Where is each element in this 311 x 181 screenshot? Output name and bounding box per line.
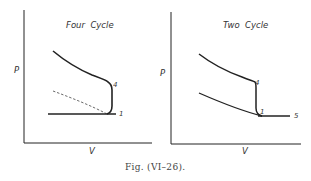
four-cycle-point-4-label: 4 bbox=[113, 81, 117, 89]
two-cycle-y-axis-label: P bbox=[160, 68, 165, 78]
four-cycle-x-axis-label: V bbox=[89, 146, 95, 156]
four-cycle-y-axis-label: P bbox=[14, 65, 19, 75]
two-cycle-point-4-label: 4 bbox=[255, 79, 259, 87]
two-cycle-expansion-curve bbox=[199, 54, 256, 88]
four-cycle-expansion-curve bbox=[53, 51, 112, 90]
two-cycle-point-5-label: 5 bbox=[294, 112, 298, 120]
two-cycle-compression-curve bbox=[199, 93, 262, 116]
two-cycle-x-axis-label: V bbox=[242, 146, 248, 156]
two-cycle-point-1-label: 1 bbox=[260, 108, 264, 116]
two-cycle-diagram bbox=[171, 12, 301, 144]
four-cycle-point-1-label: 1 bbox=[119, 110, 123, 118]
figure-caption: Fig. (VI–26). bbox=[125, 162, 185, 172]
four-cycle-title: Four Cycle bbox=[66, 20, 114, 30]
four-cycle-blowdown-curve bbox=[107, 90, 112, 114]
two-cycle-title: Two Cycle bbox=[223, 20, 268, 30]
four-cycle-compression-curve-dashed bbox=[53, 91, 107, 114]
